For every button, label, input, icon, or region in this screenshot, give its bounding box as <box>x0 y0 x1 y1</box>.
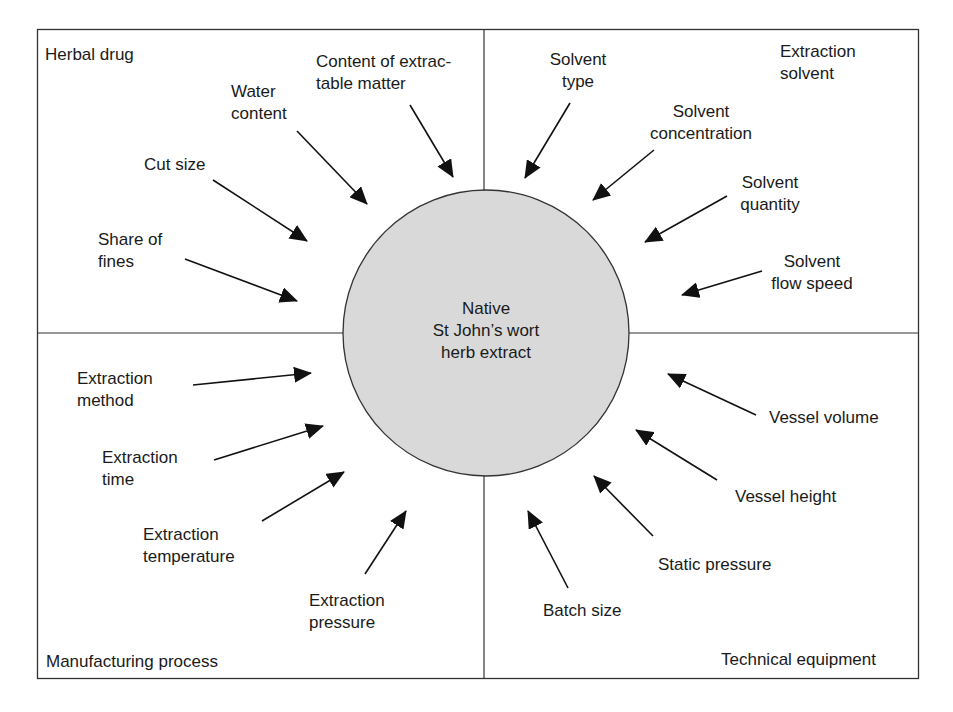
factor-extraction-pressure: Extraction pressure <box>309 590 385 634</box>
factor-static-pressure: Static pressure <box>658 554 771 576</box>
quadrant-title-herbal-drug: Herbal drug <box>45 44 134 66</box>
center-label: Native St John’s wort herb extract <box>386 298 586 364</box>
arrow-batch-size <box>528 511 568 588</box>
factor-share-of-fines: Share of fines <box>98 229 162 273</box>
arrow-vessel-height <box>636 430 717 480</box>
quadrant-title-manufacturing-process: Manufacturing process <box>46 651 218 673</box>
arrow-solvent-type <box>525 103 570 178</box>
arrow-vessel-volume <box>668 374 756 415</box>
factor-extraction-temperature: Extraction temperature <box>143 524 235 568</box>
factor-extractable-matter: Content of extrac- table matter <box>316 51 451 95</box>
arrow-share-of-fines <box>185 259 297 301</box>
factor-solvent-type: Solvent type <box>538 49 618 93</box>
factor-extraction-method: Extraction method <box>77 368 153 412</box>
arrow-solvent-concentration <box>593 150 654 200</box>
factor-batch-size: Batch size <box>543 600 621 622</box>
factor-solvent-quantity: Solvent quantity <box>725 172 815 216</box>
arrow-extraction-temperature <box>262 472 344 521</box>
factor-water-content: Water content <box>231 81 287 125</box>
factor-solvent-concentration: Solvent concentration <box>636 101 766 145</box>
quadrant-title-technical-equipment: Technical equipment <box>721 649 876 671</box>
arrow-solvent-quantity <box>645 196 727 242</box>
arrow-extraction-time <box>214 426 323 460</box>
arrow-extractable-matter <box>410 105 453 177</box>
factor-solvent-flow-speed: Solvent flow speed <box>762 251 862 295</box>
arrow-solvent-flow-speed <box>682 271 762 295</box>
factor-extraction-time: Extraction time <box>102 447 178 491</box>
quadrant-title-extraction-solvent: Extraction solvent <box>780 41 880 85</box>
arrow-extraction-method <box>193 373 311 385</box>
arrow-extraction-pressure <box>365 511 406 574</box>
factor-vessel-height: Vessel height <box>735 486 836 508</box>
arrow-static-pressure <box>594 476 653 536</box>
arrow-water-content <box>297 131 367 204</box>
arrow-cut-size <box>213 180 307 241</box>
factor-cut-size: Cut size <box>144 154 205 176</box>
factor-vessel-volume: Vessel volume <box>769 407 879 429</box>
